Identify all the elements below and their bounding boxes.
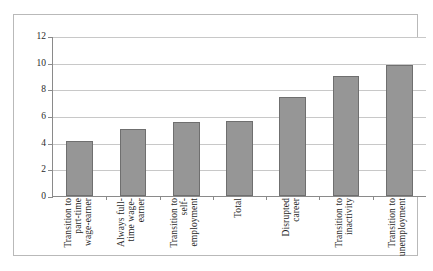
y-axis-tick	[48, 90, 53, 91]
category-label: Transition toself-employment	[159, 198, 212, 270]
y-axis-tick-label: 6	[41, 112, 46, 122]
category-label: Total	[212, 198, 265, 270]
category-label-line: inactivity	[345, 198, 355, 235]
gridline	[53, 37, 426, 38]
gridline	[53, 117, 426, 118]
y-axis-tick	[48, 64, 53, 65]
bar	[120, 129, 147, 196]
bar	[66, 141, 93, 196]
y-axis-tick-label: 2	[41, 166, 46, 176]
category-axis-labels: Transition topart-timewage-earnerAlways …	[52, 198, 426, 270]
category-label: Transition topart-timewage-earner	[52, 198, 105, 270]
category-label-line: unemployment	[398, 198, 408, 256]
bar	[279, 97, 306, 196]
bar	[173, 122, 200, 196]
category-label: Always full-time wage-earner	[105, 198, 158, 270]
category-label: Transition toinactivity	[318, 198, 371, 270]
category-label-line: career	[292, 198, 302, 222]
gridline	[53, 90, 426, 91]
category-label-line: employment	[190, 198, 200, 247]
y-axis-tick	[48, 170, 53, 171]
bar	[386, 65, 413, 196]
category-label-line: wage-earner	[84, 198, 94, 246]
bar	[333, 76, 360, 196]
category-label: Transition tounemployment	[372, 198, 425, 270]
plot-area: 024681012	[52, 37, 426, 197]
y-axis-tick	[48, 117, 53, 118]
category-label-line: Total	[234, 198, 244, 218]
y-axis-tick-label: 10	[37, 59, 47, 69]
y-axis-tick-label: 4	[41, 139, 46, 149]
gridline	[53, 64, 426, 65]
y-axis-tick	[48, 144, 53, 145]
y-axis-tick-label: 8	[41, 86, 46, 96]
category-label: Disruptedcareer	[265, 198, 318, 270]
y-axis-tick-label: 12	[37, 32, 47, 42]
chart-outer-frame: 024681012 Transition topart-timewage-ear…	[13, 14, 418, 256]
chart-figure: 024681012 Transition topart-timewage-ear…	[0, 0, 433, 271]
y-axis-tick-label: 0	[41, 192, 46, 202]
category-label-line: earner	[137, 198, 147, 222]
y-axis-tick	[48, 37, 53, 38]
bar	[226, 121, 253, 196]
